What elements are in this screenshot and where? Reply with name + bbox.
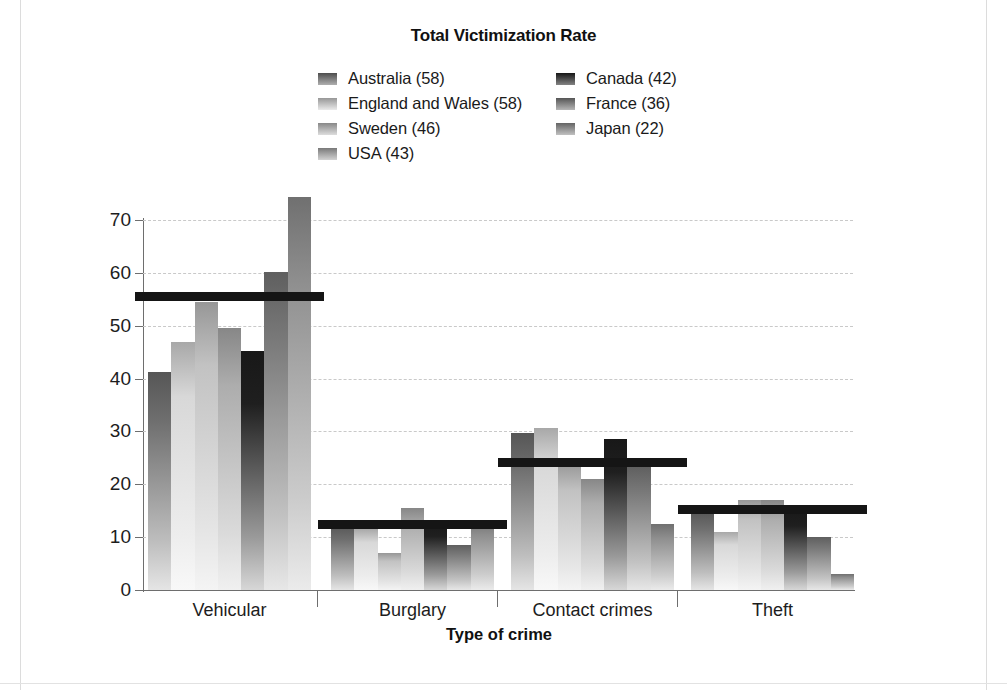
legend-label: Japan (22) — [586, 119, 664, 138]
bar-canada[interactable] — [241, 351, 264, 590]
x-axis-title: Type of crime — [143, 625, 855, 644]
legend-item-sweden: Sweden (46) — [318, 116, 548, 141]
reference-line-theft — [678, 505, 867, 514]
legend-swatch-icon — [318, 98, 337, 110]
legend-label: USA (43) — [348, 144, 414, 163]
bar-canada[interactable] — [424, 521, 447, 590]
bar-group-bars — [511, 220, 674, 590]
bar-japan[interactable] — [831, 574, 854, 590]
y-tick-label: 10 — [85, 526, 131, 548]
plot-area — [143, 220, 853, 590]
x-axis-group-separator — [677, 590, 678, 607]
bar-australia[interactable] — [331, 525, 354, 590]
bar-france[interactable] — [264, 272, 287, 590]
chart-title: Total Victimization Rate — [0, 26, 1007, 46]
y-tick-mark — [135, 590, 144, 591]
bar-england-and-wales[interactable] — [354, 529, 377, 590]
legend-swatch-icon — [556, 98, 575, 110]
y-tick-label: 20 — [85, 473, 131, 495]
reference-line-burglary — [318, 520, 507, 529]
bar-australia[interactable] — [148, 372, 171, 590]
bar-sweden[interactable] — [558, 463, 581, 590]
x-axis-line — [143, 590, 855, 591]
legend-item-japan: Japan (22) — [556, 116, 746, 141]
legend-label: Australia (58) — [348, 69, 445, 88]
bar-group-bars — [148, 220, 311, 590]
legend-item-usa: USA (43) — [318, 141, 548, 166]
bar-japan[interactable] — [288, 197, 311, 590]
reference-line-vehicular — [135, 292, 324, 301]
chart-legend: Australia (58)England and Wales (58)Swed… — [318, 66, 738, 166]
legend-item-canada: Canada (42) — [556, 66, 746, 91]
bar-england-and-wales[interactable] — [534, 428, 557, 590]
legend-swatch-icon — [318, 148, 337, 160]
bar-group-vehicular — [148, 220, 311, 590]
legend-swatch-icon — [318, 73, 337, 85]
bar-group-theft — [691, 220, 854, 590]
bar-usa[interactable] — [218, 328, 241, 590]
x-axis-group-separator — [317, 590, 318, 607]
bar-france[interactable] — [627, 466, 650, 590]
bar-group-contact-crimes — [511, 220, 674, 590]
x-tick-label-contact-crimes: Contact crimes — [501, 600, 684, 621]
bar-usa[interactable] — [581, 479, 604, 590]
legend-label: France (36) — [586, 94, 670, 113]
legend-swatch-icon — [318, 123, 337, 135]
bar-england-and-wales[interactable] — [714, 532, 737, 590]
legend-label: Canada (42) — [586, 69, 677, 88]
x-axis-group-separator — [497, 590, 498, 607]
bar-japan[interactable] — [471, 520, 494, 590]
reference-line-contact-crimes — [498, 458, 687, 467]
bar-sweden[interactable] — [378, 553, 401, 590]
bar-australia[interactable] — [691, 511, 714, 590]
bar-australia[interactable] — [511, 433, 534, 591]
legend-swatch-icon — [556, 73, 575, 85]
bar-chart: Total Victimization Rate Australia (58)E… — [0, 0, 1007, 690]
x-tick-label-burglary: Burglary — [321, 600, 504, 621]
bar-france[interactable] — [447, 545, 470, 590]
x-tick-label-theft: Theft — [681, 600, 864, 621]
bar-group-bars — [691, 220, 854, 590]
y-tick-label: 30 — [85, 420, 131, 442]
bar-sweden[interactable] — [195, 302, 218, 590]
bar-group-burglary — [331, 220, 494, 590]
y-tick-label: 40 — [85, 368, 131, 390]
bar-france[interactable] — [807, 537, 830, 590]
x-tick-label-vehicular: Vehicular — [138, 600, 321, 621]
legend-swatch-icon — [556, 123, 575, 135]
bar-japan[interactable] — [651, 524, 674, 590]
legend-label: Sweden (46) — [348, 119, 440, 138]
bar-canada[interactable] — [784, 508, 807, 590]
legend-item-australia: Australia (58) — [318, 66, 548, 91]
y-tick-label: 60 — [85, 262, 131, 284]
legend-item-england-and-wales: England and Wales (58) — [318, 91, 548, 116]
y-tick-label: 0 — [85, 579, 131, 601]
y-tick-label: 50 — [85, 315, 131, 337]
y-tick-label: 70 — [85, 209, 131, 231]
bar-england-and-wales[interactable] — [171, 342, 194, 590]
bar-group-bars — [331, 220, 494, 590]
legend-item-france: France (36) — [556, 91, 746, 116]
legend-label: England and Wales (58) — [348, 94, 522, 113]
